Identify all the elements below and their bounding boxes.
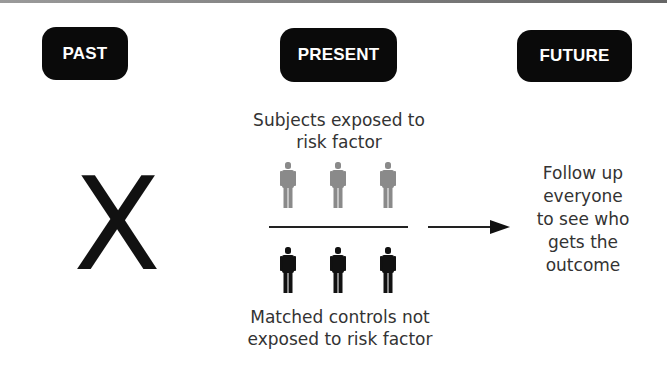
person-icon [380,162,396,208]
person-icon [330,247,346,293]
future-badge: FUTURE [517,30,632,82]
follow-up-caption: Follow up everyone to see who gets the o… [508,162,658,277]
right-arrow-icon [428,218,512,236]
exposed-group-caption: Subjects exposed to risk factor [228,109,450,153]
present-badge: PRESENT [280,28,397,82]
person-icon [380,247,396,293]
past-badge: PAST [42,27,128,80]
person-icon [280,162,296,208]
person-icon [330,162,346,208]
group-divider-line [269,226,408,228]
past-label: PAST [63,44,108,64]
top-border [0,0,667,3]
person-icon [280,247,296,293]
present-label: PRESENT [298,45,380,65]
future-label: FUTURE [539,46,609,66]
control-group-caption: Matched controls not exposed to risk fac… [220,306,460,350]
x-mark-icon: X [72,160,162,290]
